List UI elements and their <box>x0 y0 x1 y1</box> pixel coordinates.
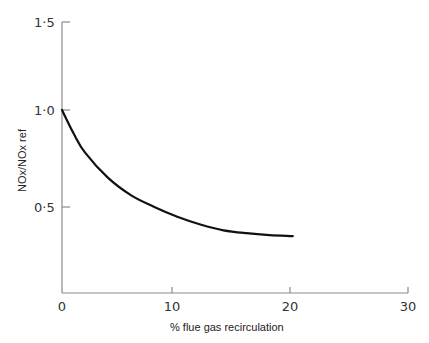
y-axis-title: NOx/NOx ref <box>16 128 28 192</box>
x-tick-label-10: 10 <box>164 299 181 314</box>
x-axis-title: % flue gas recirculation <box>170 321 284 333</box>
y-tick-label-0.5: 0·5 <box>34 200 55 215</box>
x-tick-label-30: 30 <box>400 299 417 314</box>
y-tick-label-1.0: 1·0 <box>34 103 55 118</box>
x-tick-label-0: 0 <box>58 299 66 314</box>
x-tick-label-20: 20 <box>282 299 299 314</box>
y-tick-label-1.5: 1·5 <box>34 15 55 30</box>
data-curve <box>62 110 293 236</box>
chart: 1·5 1·0 0·5 0 10 20 30 % flue gas recirc… <box>0 0 429 343</box>
axes <box>62 22 408 293</box>
